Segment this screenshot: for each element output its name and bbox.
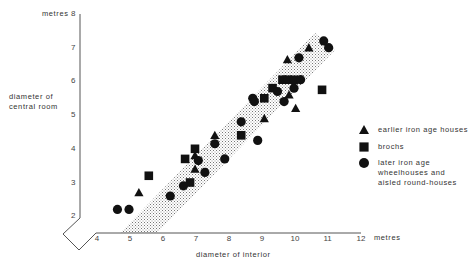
y-axis-title-line1: diameter of bbox=[9, 92, 58, 102]
y-tick-label: 3 bbox=[71, 178, 75, 188]
square-marker bbox=[359, 142, 368, 151]
x-tick-label: 6 bbox=[161, 234, 165, 244]
square-marker bbox=[318, 86, 327, 95]
legend-label-line: brochs bbox=[378, 142, 404, 152]
y-tick-label: 8 bbox=[71, 9, 75, 19]
x-axis-unit-label: metres bbox=[374, 233, 401, 243]
y-tick-label: 2 bbox=[71, 211, 75, 221]
x-axis-title: diameter of interior bbox=[196, 250, 271, 260]
y-tick-label: 5 bbox=[71, 110, 75, 120]
circle-marker bbox=[294, 53, 303, 62]
y-axis-title-line2: central room bbox=[9, 102, 58, 112]
circle-marker bbox=[359, 158, 369, 168]
square-marker bbox=[145, 171, 154, 180]
circle-marker bbox=[253, 136, 262, 145]
triangle-marker bbox=[134, 188, 143, 196]
circle-marker bbox=[237, 117, 246, 126]
circle-marker bbox=[324, 43, 333, 52]
x-tick-label: 11 bbox=[324, 234, 332, 244]
circle-marker bbox=[296, 75, 305, 84]
legend-label: brochs bbox=[378, 142, 404, 152]
y-tick-label: 7 bbox=[71, 43, 75, 53]
circle-marker bbox=[210, 139, 219, 148]
circle-marker bbox=[220, 154, 229, 163]
legend-label-line: later iron age bbox=[378, 158, 457, 168]
triangle-marker bbox=[359, 125, 369, 134]
y-tick-label: 6 bbox=[71, 76, 75, 86]
x-tick-label: 10 bbox=[291, 234, 300, 244]
y-axis-title: diameter of central room bbox=[9, 92, 58, 112]
triangle-marker bbox=[291, 104, 300, 112]
square-marker bbox=[191, 145, 200, 154]
legend-label: earlier iron age houses bbox=[378, 125, 468, 135]
y-axis-unit-label: metres bbox=[42, 9, 69, 19]
circle-marker bbox=[113, 205, 122, 214]
circle-marker bbox=[166, 191, 175, 200]
square-marker bbox=[237, 131, 246, 140]
x-tick-label: 9 bbox=[260, 234, 264, 244]
x-tick-label: 7 bbox=[194, 234, 198, 244]
x-tick-label: 8 bbox=[227, 234, 231, 244]
circle-marker bbox=[200, 168, 209, 177]
legend-label-line: wheelhouses and bbox=[378, 168, 457, 178]
circle-marker bbox=[289, 84, 298, 93]
x-tick-label: 12 bbox=[357, 234, 366, 244]
legend-label-line: earlier iron age houses bbox=[378, 125, 468, 135]
x-tick-label: 5 bbox=[128, 234, 132, 244]
square-marker bbox=[181, 155, 190, 164]
square-marker bbox=[260, 94, 269, 103]
legend-markers bbox=[359, 125, 369, 168]
circle-marker bbox=[124, 205, 133, 214]
circle-marker bbox=[273, 87, 282, 96]
circle-marker bbox=[280, 97, 289, 106]
circle-marker bbox=[250, 97, 259, 106]
legend-label: later iron agewheelhouses andaisled roun… bbox=[378, 158, 457, 188]
x-tick-label: 4 bbox=[95, 234, 99, 244]
shaded-band bbox=[120, 33, 335, 233]
circle-marker bbox=[194, 156, 203, 165]
circle-marker bbox=[179, 181, 188, 190]
legend-label-line: aisled round-houses bbox=[378, 178, 457, 188]
y-tick-label: 4 bbox=[71, 144, 75, 154]
